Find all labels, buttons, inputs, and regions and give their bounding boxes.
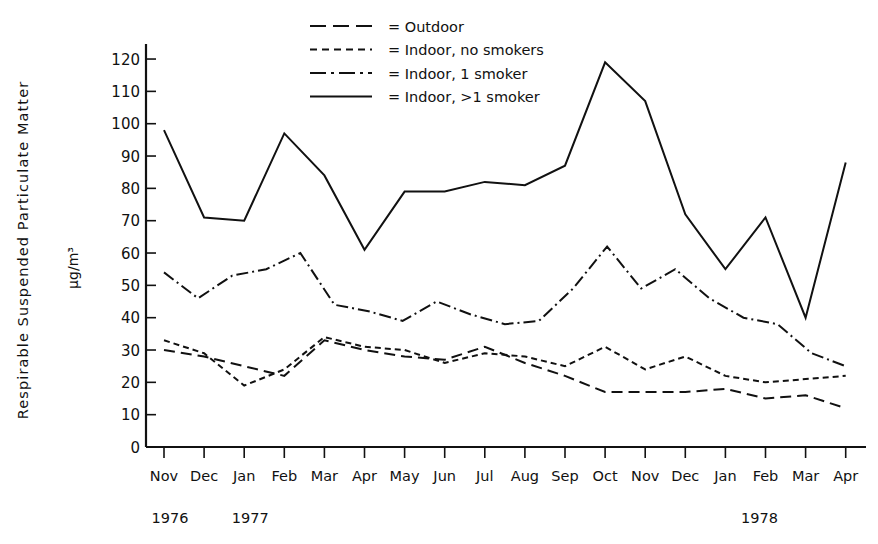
x-tick-label: Nov (150, 468, 179, 484)
x-tick-label: Feb (271, 468, 297, 484)
y-tick-label: 50 (121, 277, 140, 295)
series-line-indoor-1-smoker (164, 247, 846, 367)
x-tick-label: Aug (511, 468, 539, 484)
series-lines (164, 62, 846, 408)
x-tick-label: May (390, 468, 420, 484)
x-tick-label: Apr (833, 468, 858, 484)
x-tick-label: Nov (631, 468, 660, 484)
y-tick-label: 40 (121, 309, 140, 327)
x-tick-label: Jan (232, 468, 255, 484)
x-axis-year-labels: 197619771978 (152, 510, 778, 526)
x-tick-label: Sep (551, 468, 578, 484)
x-tick-label: Oct (593, 468, 618, 484)
x-axis-year-label: 1977 (232, 510, 269, 526)
x-tick-label: Jun (432, 468, 456, 484)
x-tick-label: Mar (792, 468, 819, 484)
line-chart: Respirable Suspended Particulate Matter … (0, 0, 878, 544)
x-axis-tick-labels: NovDecJanFebMarAprMayJunJulAugSepOctNovD… (150, 468, 858, 484)
y-tick-label: 10 (121, 406, 140, 424)
series-line-indoor-no-smokers (164, 337, 846, 385)
series-line-outdoor (164, 340, 846, 408)
x-tick-label: Jul (475, 468, 494, 484)
legend-label: = Indoor, 1 smoker (388, 66, 528, 82)
y-tick-label: 100 (111, 115, 140, 133)
y-tick-label: 30 (121, 342, 140, 360)
x-axis-year-label: 1976 (152, 510, 189, 526)
y-tick-label: 90 (121, 148, 140, 166)
legend-label: = Indoor, no smokers (388, 42, 544, 58)
y-axis-tick-labels: 0102030405060708090100110120 (111, 51, 140, 457)
y-tick-label: 110 (111, 83, 140, 101)
x-tick-label: Dec (671, 468, 699, 484)
chart-legend: = Outdoor= Indoor, no smokers= Indoor, 1… (310, 19, 544, 106)
legend-label: = Outdoor (388, 19, 464, 35)
y-tick-label: 80 (121, 180, 140, 198)
y-axis-units-label: μg/m³ (65, 247, 81, 289)
x-tick-label: Apr (352, 468, 377, 484)
x-tick-label: Jan (713, 468, 736, 484)
chart-figure: Respirable Suspended Particulate Matter … (0, 0, 878, 544)
x-tick-label: Feb (753, 468, 779, 484)
y-axis-title: Respirable Suspended Particulate Matter (15, 81, 31, 419)
x-axis-ticks (164, 447, 846, 458)
y-tick-label: 120 (111, 51, 140, 69)
y-tick-label: 70 (121, 212, 140, 230)
y-tick-label: 0 (130, 439, 140, 457)
y-tick-label: 20 (121, 374, 140, 392)
x-tick-label: Mar (311, 468, 338, 484)
y-tick-label: 60 (121, 245, 140, 263)
x-axis-year-label: 1978 (741, 510, 778, 526)
y-axis-ticks (146, 59, 156, 447)
x-tick-label: Dec (190, 468, 218, 484)
legend-label: = Indoor, >1 smoker (388, 89, 540, 105)
